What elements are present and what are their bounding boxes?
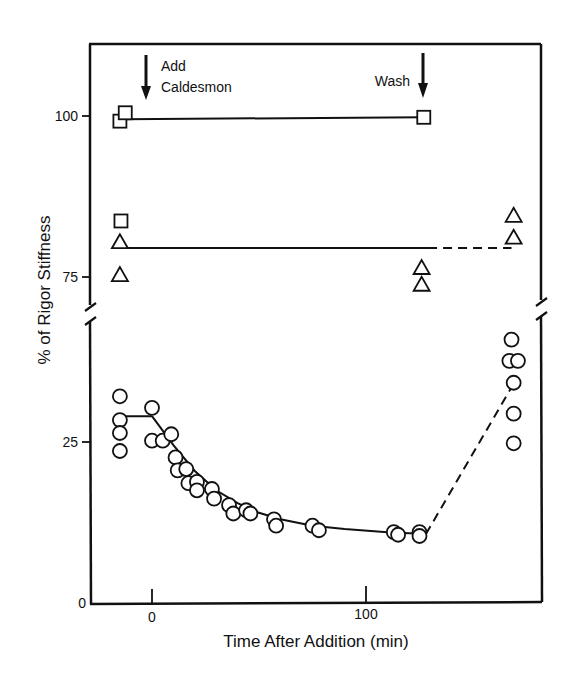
y-tick-100: 100 — [55, 108, 79, 124]
circle-marker — [226, 506, 240, 520]
y-tick-0: 0 — [78, 595, 86, 611]
x-axis-ticks — [152, 586, 366, 604]
annotation-add-label: Add — [161, 58, 186, 74]
data-markers — [112, 106, 525, 543]
circle-marker — [113, 444, 127, 458]
triangle-marker — [414, 277, 430, 291]
arrow-down-icon — [418, 83, 428, 98]
circle-marker — [413, 529, 427, 543]
square-marker — [417, 111, 430, 124]
circle-marker — [391, 528, 405, 542]
y-axis-title: % of Rigor Stiffness — [35, 216, 54, 365]
axis-break-marks — [85, 298, 547, 325]
fit-line — [426, 387, 512, 534]
x-axis-title: Time After Addition (min) — [223, 632, 409, 651]
square-marker — [114, 214, 127, 227]
annotation-add-caldesmon: Add Caldesmon — [141, 55, 232, 100]
x-tick-100: 100 — [354, 606, 378, 622]
circle-marker — [207, 492, 221, 506]
circle-marker — [179, 462, 193, 476]
triangle-marker — [506, 208, 522, 222]
circle-marker — [113, 426, 127, 440]
circle-marker — [507, 436, 521, 450]
circle-marker — [145, 401, 159, 415]
fit-line — [124, 117, 424, 119]
circle-marker — [505, 333, 519, 347]
circle-marker — [243, 506, 257, 520]
circle-marker — [190, 483, 204, 497]
triangle-marker — [414, 260, 430, 274]
annotation-caldesmon-label: Caldesmon — [161, 79, 232, 95]
square-marker — [119, 106, 132, 119]
circle-marker — [507, 376, 521, 390]
chart-canvas: 100 75 25 0 0 100 Time After Addition (m… — [0, 0, 578, 682]
annotation-wash-label: Wash — [375, 73, 410, 89]
annotation-wash: Wash — [375, 53, 428, 98]
circle-marker — [164, 427, 178, 441]
circle-marker — [113, 413, 127, 427]
arrow-down-icon — [141, 86, 151, 100]
circle-marker — [269, 519, 283, 533]
x-tick-0: 0 — [148, 609, 156, 625]
circle-marker — [169, 450, 183, 464]
y-tick-75: 75 — [62, 269, 78, 285]
triangle-marker — [112, 267, 128, 281]
circle-marker — [312, 523, 326, 537]
triangle-marker — [506, 230, 522, 244]
y-tick-25: 25 — [62, 434, 78, 450]
circle-marker — [511, 354, 525, 368]
triangle-marker — [112, 234, 128, 248]
circle-marker — [507, 407, 521, 421]
circle-marker — [113, 389, 127, 403]
